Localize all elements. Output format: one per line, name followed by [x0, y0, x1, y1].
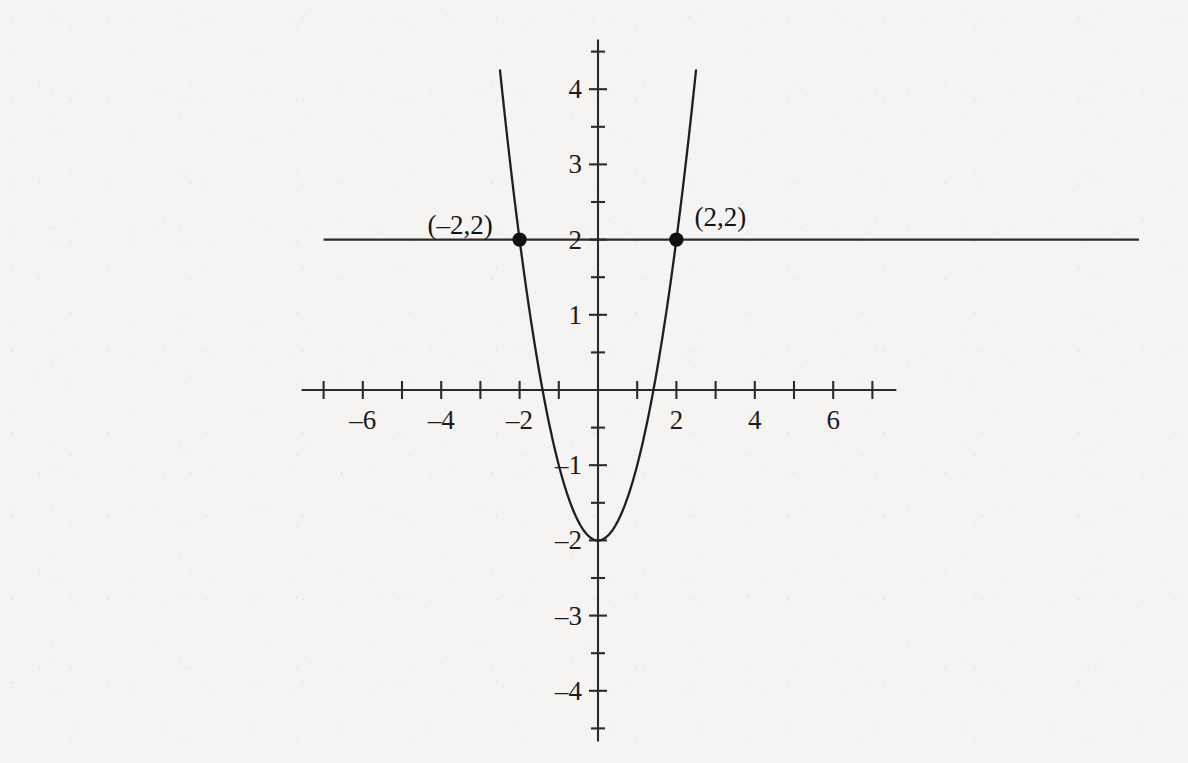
- x-axis-tick-label: 2: [670, 407, 684, 434]
- x-axis-tick-label: –6: [349, 407, 376, 434]
- parabola-line-intersection-figure: –6–4–2246 4321–1–2–3–4 (–2,2)(2,2): [0, 0, 1188, 763]
- y-axis-tick-label: –1: [555, 452, 582, 479]
- y-axis-tick-label: –4: [555, 677, 582, 704]
- y-axis-tick-label: 4: [569, 76, 583, 103]
- x-axis-tick-label: 4: [748, 407, 762, 434]
- y-axis-tick-label: 3: [569, 151, 583, 178]
- plot-canvas: [0, 0, 1188, 763]
- point-annotation-label: (–2,2): [428, 212, 493, 239]
- y-axis-tick-label: 2: [569, 226, 583, 253]
- x-axis-tick-label: –2: [506, 407, 533, 434]
- intersection-point-marker: [512, 232, 526, 246]
- y-axis-tick-label: –3: [555, 602, 582, 629]
- x-axis-tick-label: –4: [428, 407, 455, 434]
- intersection-point-marker: [669, 232, 683, 246]
- y-axis-tick-label: –2: [555, 527, 582, 554]
- x-axis-tick-label: 6: [826, 407, 840, 434]
- y-axis-tick-label: 1: [569, 301, 583, 328]
- point-annotation-label: (2,2): [694, 204, 746, 231]
